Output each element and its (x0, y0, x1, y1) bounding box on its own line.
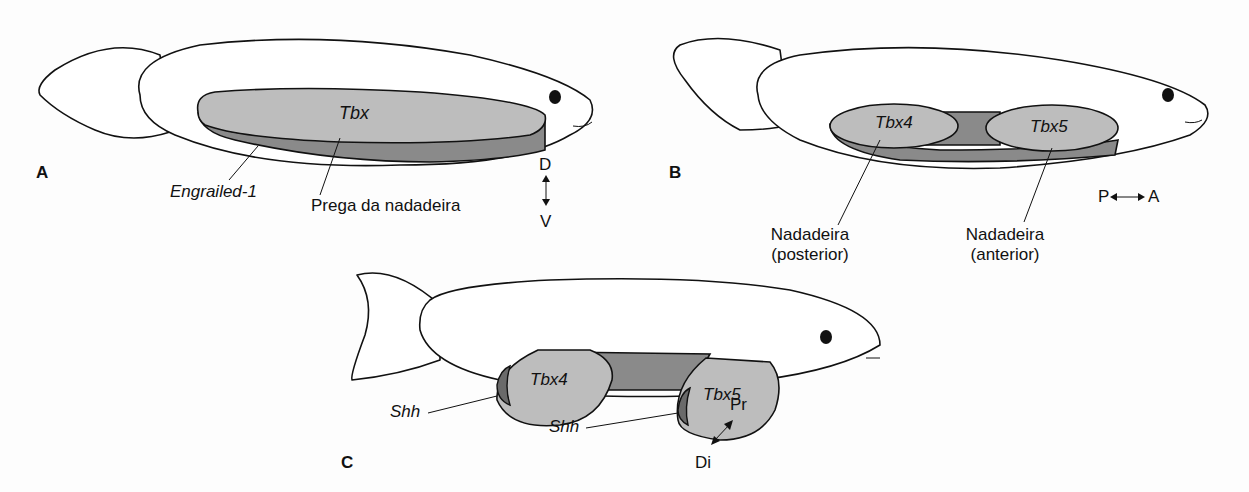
gene-label-tbx: Tbx (339, 103, 369, 124)
fin-development-diagram (0, 0, 1249, 492)
label-engrailed-1: Engrailed-1 (170, 182, 257, 202)
axis-label-anterior: A (1148, 187, 1159, 207)
axis-label-distal: Di (695, 453, 711, 473)
fish-c (352, 273, 880, 445)
eye-c (820, 330, 832, 344)
gene-label-tbx4-b: Tbx4 (875, 113, 913, 133)
gene-label-tbx5-b: Tbx5 (1030, 117, 1068, 137)
axis-label-dorsal: D (539, 155, 551, 175)
panel-label-c: C (341, 453, 353, 473)
label-posterior-fin-line1: Nadadeira (765, 225, 855, 245)
axis-label-ventral: V (540, 212, 551, 232)
label-shh-anterior: Shh (549, 417, 579, 437)
axis-label-proximal: Pr (730, 395, 747, 415)
panel-label-a: A (36, 163, 48, 183)
panel-label-b: B (669, 163, 681, 183)
label-anterior-fin-line1: Nadadeira (960, 225, 1050, 245)
label-posterior-fin-line2: (posterior) (765, 245, 855, 265)
label-shh-posterior: Shh (390, 402, 420, 422)
label-posterior-fin: Nadadeira (posterior) (765, 225, 855, 265)
eye-a (549, 90, 561, 104)
label-anterior-fin: Nadadeira (anterior) (960, 225, 1050, 265)
axis-label-posterior: P (1098, 187, 1109, 207)
label-anterior-fin-line2: (anterior) (960, 245, 1050, 265)
gene-label-tbx4-c: Tbx4 (530, 370, 568, 390)
fish-b (674, 39, 1208, 225)
fish-a (39, 39, 593, 206)
label-prega-da-nadadeira: Prega da nadadeira (311, 196, 460, 216)
eye-b (1162, 88, 1174, 102)
